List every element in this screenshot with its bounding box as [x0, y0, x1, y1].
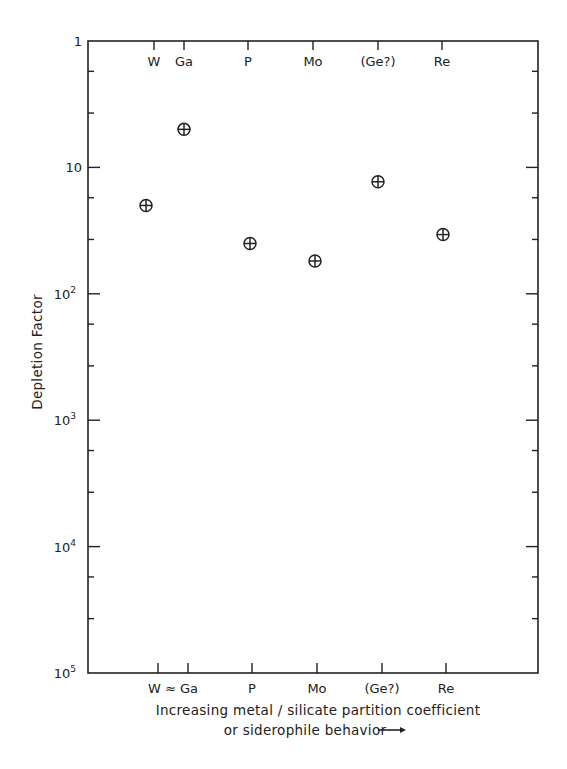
moon-symbol-icon — [184, 221, 191, 235]
moon-symbol-icon — [314, 379, 321, 393]
moon-symbol-icon — [249, 297, 256, 311]
y-tick-label: 105 — [54, 664, 76, 681]
top-element-label: Re — [434, 54, 450, 69]
earth-symbol-icon — [372, 176, 384, 188]
top-element-label: P — [244, 54, 252, 69]
moon-symbol-icon — [445, 542, 452, 556]
y-tick-label: 103 — [54, 411, 76, 428]
bottom-element-label: W ≈ Ga — [148, 681, 198, 696]
plot-frame — [88, 41, 538, 673]
plot-border — [88, 41, 538, 673]
moon-symbol-icon — [379, 503, 386, 517]
moon-symbol-icon — [154, 198, 165, 212]
top-element-label: (Ge?) — [360, 54, 395, 69]
x-axis-title-line1: Increasing metal / silicate partition co… — [156, 702, 481, 718]
y-tick-label: 10 — [65, 160, 82, 175]
depletion-factor-chart: 110102103104105 WGaPMo(Ge?)ReW ≈ GaPMo(G… — [0, 0, 567, 769]
top-element-label: Mo — [303, 54, 322, 69]
earth-symbol-icon — [140, 199, 152, 211]
top-element-label: Ga — [175, 54, 193, 69]
bottom-element-label: Re — [438, 681, 454, 696]
x-axis-ticks: WGaPMo(Ge?)ReW ≈ GaPMo(Ge?)Re — [148, 41, 455, 696]
x-axis-title-line2: or siderophile behavior — [224, 722, 387, 738]
earth-symbol-icon — [244, 238, 256, 250]
y-tick-label: 1 — [74, 34, 82, 49]
x-axis-title-line2-group: or siderophile behavior — [224, 722, 406, 738]
y-tick-label: 102 — [54, 285, 76, 302]
data-points — [140, 123, 452, 556]
y-axis-title: Depletion Factor — [29, 294, 45, 410]
earth-symbol-icon — [309, 255, 321, 267]
bottom-element-label: Mo — [307, 681, 326, 696]
y-axis-ticks: 110102103104105 — [54, 34, 538, 681]
top-element-label: W — [148, 54, 161, 69]
bottom-element-label: P — [248, 681, 256, 696]
bottom-element-label: (Ge?) — [364, 681, 399, 696]
earth-symbol-icon — [437, 229, 449, 241]
y-tick-label: 104 — [54, 538, 77, 555]
earth-symbol-icon — [178, 123, 190, 135]
